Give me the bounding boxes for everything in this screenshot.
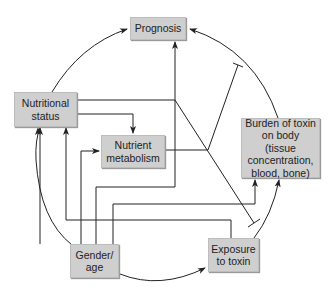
diagram-canvas: Prognosis Nutritional status Nutrient me… bbox=[0, 0, 335, 297]
node-prognosis: Prognosis bbox=[130, 17, 186, 40]
node-label: Exposure to toxin bbox=[211, 243, 255, 268]
node-exposure-to-toxin: Exposure to toxin bbox=[208, 238, 259, 272]
node-label: Prognosis bbox=[135, 22, 182, 35]
node-nutrient-metabolism: Nutrient metabolism bbox=[101, 135, 165, 168]
node-gender-age: Gender/ age bbox=[70, 244, 119, 278]
node-burden-of-toxin: Burden of toxin on body (tissue concentr… bbox=[241, 118, 320, 178]
node-nutritional-status: Nutritional status bbox=[14, 92, 77, 127]
node-label: Nutrient metabolism bbox=[106, 139, 160, 164]
node-label: Gender/ age bbox=[76, 249, 114, 274]
node-label: Burden of toxin on body (tissue concentr… bbox=[245, 117, 316, 180]
node-label: Nutritional status bbox=[21, 97, 70, 122]
